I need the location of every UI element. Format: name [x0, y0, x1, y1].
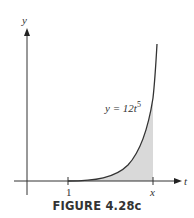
y-axis-arrow-icon: [24, 28, 30, 36]
t-axis-label: t: [184, 175, 188, 187]
curve-label-exponent: 5: [137, 100, 141, 109]
tick-label-x: x: [149, 186, 155, 198]
y-axis-label: y: [21, 14, 27, 26]
t-axis-arrow-icon: [174, 178, 182, 184]
figure-caption: FIGURE 4.28c: [0, 199, 194, 213]
tick-label-1: 1: [66, 186, 72, 198]
curve-label-text: y = 12t: [104, 102, 138, 114]
curve-label: y = 12t5: [104, 100, 141, 114]
figure-plot: y t 1 x y = 12t5: [0, 0, 194, 218]
